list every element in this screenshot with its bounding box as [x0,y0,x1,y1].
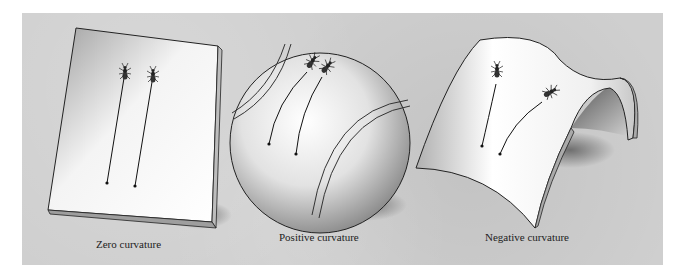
caption-negative-curvature: Negative curvature [485,231,569,243]
zero-curvature-plane [48,28,232,229]
positive-curvature-sphere [230,44,410,233]
caption-zero-curvature: Zero curvature [96,238,161,250]
caption-positive-curvature: Positive curvature [279,231,359,243]
negative-curvature-saddle [416,38,638,229]
